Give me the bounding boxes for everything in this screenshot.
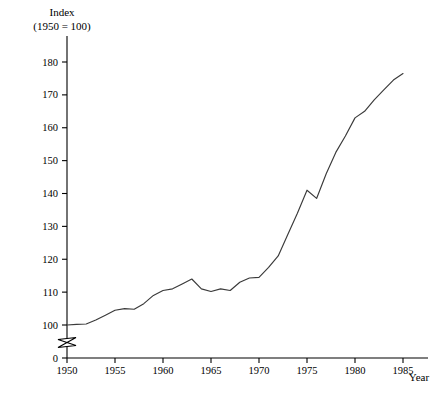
x-tick-label: 1970 [249,365,270,376]
x-tick-label: 1965 [201,365,222,376]
chart-container: Index (1950 = 100) 010011012013014015016… [0,0,435,395]
data-series-line [67,74,403,325]
y-tick-label: 100 [42,320,58,331]
x-tick-label: 1955 [105,365,126,376]
line-chart: Index (1950 = 100) 010011012013014015016… [0,0,435,395]
y-tick-label: 120 [42,254,58,265]
y-tick-label: 180 [42,57,58,68]
y-axis-title: Index (1950 = 100) [33,6,91,33]
y-tick-label: 110 [43,287,58,298]
y-axis-break-icon [58,338,76,348]
x-tick-label: 1960 [153,365,174,376]
x-tick-label: 1980 [345,365,366,376]
y-tick-label: 0 [53,353,58,364]
y-tick-label: 170 [42,89,58,100]
y-axis-title-line1: Index [49,6,75,18]
x-axis-title: Year [409,371,430,383]
y-axis-ticks: 0100110120130140150160170180 [42,57,67,364]
x-axis-ticks: 19501955196019651970197519801985 [57,358,414,376]
y-tick-label: 150 [42,155,58,166]
x-tick-label: 1950 [57,365,78,376]
y-axis-title-line2: (1950 = 100) [33,20,91,33]
y-tick-label: 160 [42,122,58,133]
y-tick-label: 130 [42,221,58,232]
y-tick-label: 140 [42,188,58,199]
x-tick-label: 1975 [297,365,318,376]
